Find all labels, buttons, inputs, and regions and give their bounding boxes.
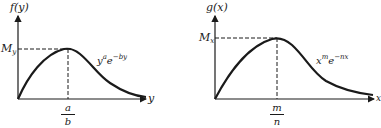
left-curve-label: yae−by (97, 54, 127, 66)
right-max-label-sub: x (210, 37, 214, 45)
left-max-label-base: M (1, 42, 12, 55)
right-peak-denominator: n (270, 115, 284, 127)
right-plot (215, 16, 374, 99)
left-peak-fraction: a b (61, 103, 75, 127)
left-max-label-sub: y (12, 48, 16, 56)
right-y-axis-label: g(x) (206, 2, 228, 13)
left-max-label: My (1, 43, 16, 56)
left-peak-numerator: a (61, 103, 75, 115)
right-max-label-base: M (199, 31, 210, 44)
right-peak-fraction: m n (270, 103, 284, 127)
left-x-axis-label: y (148, 93, 154, 104)
left-y-axis-label: f(y) (10, 2, 29, 13)
left-peak-denominator: b (61, 115, 75, 127)
right-x-axis-label: x (376, 94, 381, 103)
right-max-label: Mx (199, 32, 214, 45)
right-peak-numerator: m (270, 103, 284, 115)
right-curve-label: xme−nx (316, 54, 349, 66)
right-curve (215, 38, 373, 99)
